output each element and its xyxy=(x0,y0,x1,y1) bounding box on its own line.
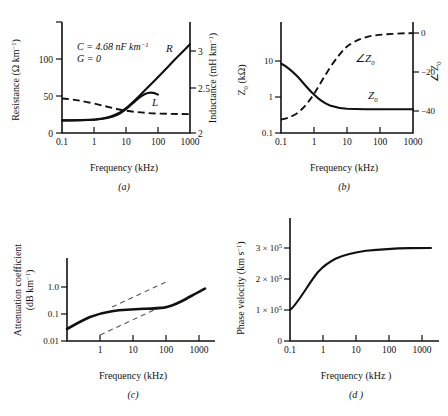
panel-d: Phase velocity (km s−1) 0 1 × 105 2 × 10… xyxy=(224,208,448,416)
panel-d-ytick-2e5: 2 × 105 xyxy=(256,273,283,284)
panel-b-xtick-0: 0.1 xyxy=(275,137,287,147)
panel-b-ytick-1: 1 xyxy=(269,92,274,102)
panel-c-ytick-0-01: 0.01 xyxy=(43,336,59,346)
panel-b-curve-label-z0: Z0 xyxy=(368,89,378,103)
panel-d-curve-phase-velocity xyxy=(290,248,431,310)
panel-b-ytick-0-1: 0.1 xyxy=(262,128,273,138)
panel-a-caption: (a) xyxy=(118,181,130,193)
panel-d-xtick-4: 1000 xyxy=(413,345,432,355)
panel-c-reference-line-lower xyxy=(100,310,154,335)
panel-a-curve-label-l: L xyxy=(151,96,158,108)
panel-b-ytick-right-40: −40 xyxy=(421,106,436,116)
panel-a-ytick-right-3: 3 xyxy=(198,47,203,57)
panel-d-caption: (d ) xyxy=(349,389,364,401)
panel-b-xtick-3: 100 xyxy=(373,137,388,147)
panel-a-xtick-1: 1 xyxy=(92,137,97,147)
panel-c-xtick-100: 100 xyxy=(159,345,174,355)
svg-text:Z0 (kΩ): Z0 (kΩ) xyxy=(236,65,249,96)
panel-d-xlabel: Frequency (kHz ) xyxy=(321,370,392,382)
panel-a-curve-l xyxy=(62,99,190,115)
panel-a: Resistance (Ω km−1) Inductance (mH km−1)… xyxy=(0,0,224,208)
panel-d-ylabel: Phase velocity (km s−1) xyxy=(235,241,247,334)
figure-transmission-line-parameters: Resistance (Ω km−1) Inductance (mH km−1)… xyxy=(0,0,448,416)
panel-d-xtick-0: 0.1 xyxy=(284,345,296,355)
panel-b: Z0 (kΩ) ∠ Z0 0.1 1 10 0 −20 xyxy=(224,0,448,208)
panel-a-xtick-0: 0.1 xyxy=(56,137,68,147)
panel-b-curve-angle-z0 xyxy=(281,33,413,119)
panel-a-ytick-100: 100 xyxy=(39,55,54,65)
panel-b-ytick-right-0: 0 xyxy=(421,28,426,38)
panel-d-xtick-2: 10 xyxy=(351,345,361,355)
panel-c-ytick-0-1: 0.1 xyxy=(48,309,59,319)
panel-b-xtick-1: 1 xyxy=(312,137,317,147)
panel-a-xtick-3: 100 xyxy=(151,137,166,147)
panel-a-annotation-g: G = 0 xyxy=(77,53,101,64)
panel-a-ytick-right-2-5: 2.5 xyxy=(198,84,210,94)
panel-b-ylabel-right-sub: 0 xyxy=(435,61,442,65)
panel-a-ylabel-left-close: ) xyxy=(10,39,22,42)
panel-b-ytick-10: 10 xyxy=(264,56,274,66)
panel-a-ylabel-left: Resistance ( xyxy=(10,72,22,121)
panel-b-curve-z0 xyxy=(281,64,413,110)
panel-a-ylabel-left-exp: −1 xyxy=(10,43,17,50)
panel-d-ytick-3e5: 3 × 105 xyxy=(256,242,283,253)
panel-a-xtick-2: 10 xyxy=(121,137,131,147)
panel-c-xtick-10: 10 xyxy=(128,345,138,355)
panel-c-ylabel-line2: (dB km−1) xyxy=(24,270,36,311)
panel-c-xlabel: Frequency (kHz) xyxy=(99,370,167,382)
panel-c-xtick-1: 1 xyxy=(98,345,103,355)
panel-b-ylabel-left-close: (kΩ) xyxy=(236,65,248,87)
panel-a-curve-label-r: R xyxy=(165,42,173,54)
panel-b-caption: (b) xyxy=(338,181,350,193)
panel-c-ylabel-line1: Attenuation coefficient xyxy=(12,244,23,337)
panel-d-xtick-3: 100 xyxy=(382,345,397,355)
panel-b-ytick-right-20: −20 xyxy=(421,67,436,77)
panel-b-curve-label-angle-z0: ∠Z0 xyxy=(355,52,375,66)
panel-a-ytick-50: 50 xyxy=(44,92,54,102)
panel-c-ytick-1-0: 1.0 xyxy=(48,282,60,292)
panel-a-xlabel: Frequency (kHz) xyxy=(90,162,158,174)
svg-text:Resistance (Ω km−1): Resistance (Ω km−1) xyxy=(10,39,22,121)
panel-a-ylabel-right-close: ) xyxy=(207,33,219,36)
panel-c-xtick-1000: 1000 xyxy=(190,345,209,355)
panel-c-caption: (c) xyxy=(127,389,139,401)
panel-a-annotation-c: C = 4.68 nF km−1 xyxy=(77,41,148,52)
panel-b-xtick-2: 10 xyxy=(342,137,352,147)
panel-c: Attenuation coefficient (dB km−1) 0.01 0… xyxy=(0,208,224,416)
panel-b-xtick-4: 1000 xyxy=(404,137,423,147)
panel-d-ytick-1e5: 1 × 105 xyxy=(256,304,283,315)
svg-text:Inductance (mH km−1): Inductance (mH km−1) xyxy=(207,33,219,123)
panel-d-xtick-1: 1 xyxy=(321,345,326,355)
panel-b-xlabel: Frequency (kHz) xyxy=(310,162,378,174)
panel-a-ytick-0: 0 xyxy=(48,129,53,139)
panel-c-reference-line-upper xyxy=(112,282,166,307)
panel-a-xtick-4: 1000 xyxy=(181,137,200,147)
panel-a-ylabel-left-unit: Ω km xyxy=(10,49,21,72)
panel-c-curve-attenuation xyxy=(67,289,205,329)
panel-a-ylabel-right-exp: −1 xyxy=(207,36,214,43)
panel-d-ytick-0: 0 xyxy=(278,336,283,346)
